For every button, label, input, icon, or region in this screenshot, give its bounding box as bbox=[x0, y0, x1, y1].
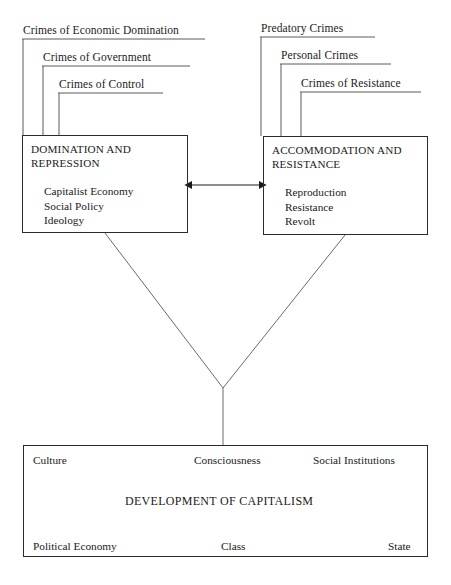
convergence-lines bbox=[105, 233, 345, 445]
box-accommodation-item: Resistance bbox=[285, 200, 425, 215]
base-label-culture: Culture bbox=[33, 453, 67, 467]
box-domination-item: Capitalist Economy bbox=[44, 184, 184, 199]
label-crimes-of-economic-domination: Crimes of Economic Domination bbox=[23, 24, 179, 37]
box-domination-items: Capitalist Economy Social Policy Ideolog… bbox=[44, 184, 184, 228]
label-predatory-crimes: Predatory Crimes bbox=[261, 22, 343, 35]
base-label-state: State bbox=[388, 539, 411, 553]
base-label-consciousness: Consciousness bbox=[194, 453, 261, 467]
diagram-canvas: Crimes of Economic Domination Crimes of … bbox=[0, 0, 451, 585]
base-label-political-economy: Political Economy bbox=[33, 539, 117, 553]
box-domination-title: DOMINATION AND REPRESSION bbox=[31, 142, 181, 170]
label-crimes-of-control: Crimes of Control bbox=[59, 78, 144, 91]
label-crimes-of-government: Crimes of Government bbox=[43, 51, 151, 64]
box-accommodation-item: Reproduction bbox=[285, 185, 425, 200]
base-title-development-of-capitalism: DEVELOPMENT OF CAPITALISM bbox=[125, 494, 313, 509]
box-accommodation-items: Reproduction Resistance Revolt bbox=[285, 185, 425, 229]
base-label-social-institutions: Social Institutions bbox=[313, 453, 395, 467]
box-accommodation-item: Revolt bbox=[285, 214, 425, 229]
box-domination-item: Ideology bbox=[44, 213, 184, 228]
label-crimes-of-resistance: Crimes of Resistance bbox=[301, 77, 401, 90]
box-domination-item: Social Policy bbox=[44, 199, 184, 214]
label-personal-crimes: Personal Crimes bbox=[281, 49, 358, 62]
base-label-class: Class bbox=[221, 539, 245, 553]
box-accommodation-title: ACCOMMODATION AND RESISTANCE bbox=[272, 143, 427, 171]
